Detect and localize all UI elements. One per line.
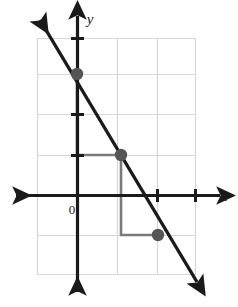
data-point [71,68,83,80]
origin-label: 0 [69,202,76,217]
x-axis-label: x [220,188,228,204]
y-axis-label: y [85,11,94,27]
coordinate-plane-svg: y x 0 [0,0,238,307]
graph-figure: y x 0 [0,0,238,307]
data-point [152,229,164,241]
data-point [115,149,127,161]
